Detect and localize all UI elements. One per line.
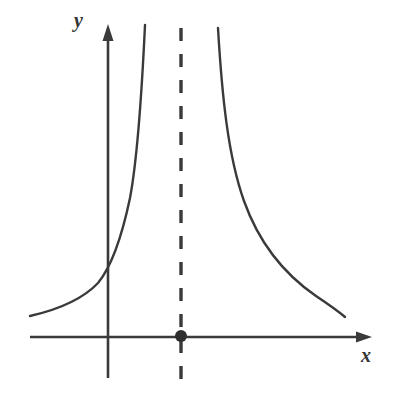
curve-right-branch <box>218 28 345 317</box>
y-axis-arrow-icon <box>103 24 114 41</box>
plot-canvas <box>0 0 397 393</box>
y-axis <box>103 24 114 378</box>
graph-figure: y x <box>0 0 397 393</box>
curve-left-branch <box>30 25 145 316</box>
x-axis <box>30 332 372 343</box>
marked-point <box>175 330 187 342</box>
x-axis-label: x <box>361 345 371 365</box>
x-axis-arrow-icon <box>356 332 372 343</box>
y-axis-label: y <box>74 10 83 30</box>
